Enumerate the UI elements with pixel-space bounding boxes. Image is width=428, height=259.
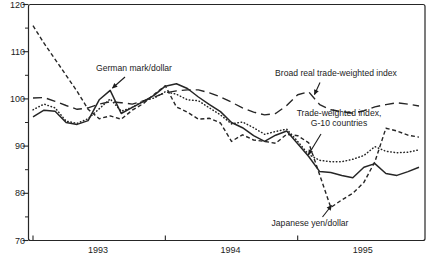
annotation-g10-label-line2: G-10 countries xyxy=(311,118,367,128)
x-year-label-1995: 1995 xyxy=(353,245,373,255)
annotation-broad-label: Broad real trade-weighted index xyxy=(275,68,398,78)
annotation-arrow-broad-label xyxy=(315,83,321,95)
annotation-arrow-yen-label xyxy=(323,206,332,218)
y-axis-tick-label-110: 110 xyxy=(11,47,25,57)
y-axis-tick-label-100: 100 xyxy=(10,94,25,104)
annotation-arrow-german-mark-label xyxy=(113,77,126,88)
annotation-arrow-g10-label xyxy=(309,134,322,155)
y-axis-tick-label-90: 90 xyxy=(15,141,25,151)
y-axis-tick-label-70: 70 xyxy=(15,236,25,246)
x-year-label-1994: 1994 xyxy=(220,245,240,255)
scanned-figure-page: 708090100110120199319941995German mark/d… xyxy=(0,0,428,259)
annotation-german-mark-label: German mark/dollar xyxy=(96,63,172,73)
y-axis-tick-label-80: 80 xyxy=(15,188,25,198)
exchange-rate-line-chart: 708090100110120199319941995German mark/d… xyxy=(0,0,428,259)
series-line-german-mark xyxy=(33,84,419,178)
annotation-g10-label-line1: Trade-weighted index, xyxy=(297,108,382,118)
y-axis-tick-label-120: 120 xyxy=(10,0,25,10)
x-year-label-1993: 1993 xyxy=(88,245,108,255)
annotation-yen-label: Japanese yen/dollar xyxy=(272,218,349,228)
